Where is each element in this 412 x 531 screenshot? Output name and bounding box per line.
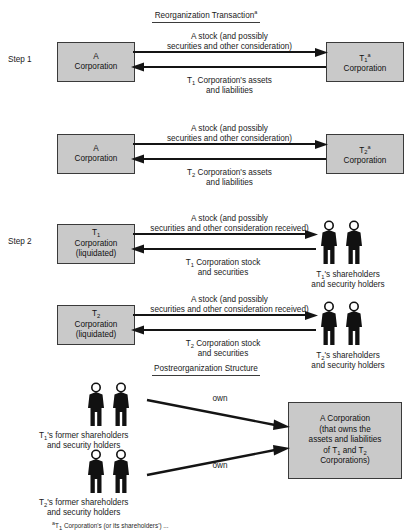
caption-row3-t-subscript: 1	[191, 262, 194, 268]
box-t2-liq-subscript: 2	[97, 313, 100, 319]
label-t1-former-rest: 's former shareholders	[47, 431, 128, 440]
footnote-text: Corporation's (or its shareholders') ...	[62, 522, 169, 529]
box-a-corporation-1: A Corporation	[57, 42, 135, 82]
arrow-row2-pair	[131, 140, 331, 170]
box-t2-liq-line1: T2	[92, 309, 100, 320]
box-t2-corp-line2: Corporation	[344, 156, 387, 167]
box-t1-corporation-liquidated: T1 Corporation (liquidated)	[57, 224, 135, 264]
label-t1-former-line1: T1's former shareholders	[39, 431, 179, 441]
box-t1-liq-line1: T1	[92, 228, 100, 239]
heading-reorg-footnote-mark: a	[254, 9, 257, 15]
people-icon-t1-shareholders	[318, 220, 376, 266]
box-t2-liq-line2: Corporation	[75, 320, 118, 331]
box-a-post-of-t1: of T	[323, 446, 337, 455]
box-t1-corp-line1: T1a	[359, 50, 370, 64]
arrow-row3-pair	[131, 230, 321, 260]
label-t2-former-line2: and security holders	[39, 508, 179, 518]
people-icon-t2-shareholders	[318, 301, 376, 347]
caption-row2-t-subscript: 2	[192, 172, 195, 178]
box-t2-corporation: T2a Corporation	[326, 134, 404, 174]
label-t2-shareholders: T2's shareholders and security holders	[286, 351, 410, 372]
box-t2-corp-subscript: 2	[364, 149, 367, 155]
label-t1-former-subscript: 1	[44, 435, 47, 441]
arrow-row1-pair	[131, 48, 331, 78]
label-t2-shareholders-line1: T2's shareholders	[286, 351, 410, 361]
box-t2-corp-footnote-mark: a	[368, 144, 371, 150]
box-t2-corp-line1: T2a	[359, 142, 370, 156]
box-t1-corp-footnote-mark: a	[368, 52, 371, 58]
arrow-row4-pair	[131, 311, 321, 341]
caption-row1-top-line1: A stock (and possibly	[133, 32, 326, 42]
label-t2-former-subscript: 2	[44, 502, 47, 508]
heading-reorg-text: Reorganization Transaction	[155, 11, 255, 20]
label-t1-shareholders: T1's shareholders and security holders	[286, 270, 410, 291]
box-t1-liq-line2: Corporation	[75, 239, 118, 250]
label-t1-shareholders-line2: and security holders	[286, 280, 410, 290]
box-a-corp-1-line2: Corporation	[75, 62, 118, 73]
label-own-2: own	[175, 461, 265, 471]
caption-row1-t-subscript: 1	[192, 80, 195, 86]
caption-row4-t-subscript: 2	[191, 343, 194, 349]
box-a-post-line2: (that owns the	[319, 425, 370, 436]
box-t1-liq-line3: (liquidated)	[76, 249, 117, 260]
box-t2-corporation-liquidated: T2 Corporation (liquidated)	[57, 305, 135, 345]
label-t1-shareholders-line1: T1's shareholders	[286, 270, 410, 280]
box-a-post-t2-subscript: 2	[364, 450, 367, 456]
box-a-corp-2-line1: A	[93, 144, 98, 155]
caption-row1-bottom-line2: and liabilities	[133, 86, 326, 96]
caption-row4-top-line1: A stock (and possibly	[133, 295, 326, 305]
box-t1-corporation: T1a Corporation	[326, 42, 404, 82]
people-icon-t2-former-shareholders	[85, 449, 143, 495]
box-a-post-line5: Corporations)	[320, 456, 370, 467]
footnote: aT1 Corporation's (or its shareholders')…	[52, 519, 169, 530]
step-2-label: Step 2	[8, 237, 32, 247]
label-t2-shareholders-line2: and security holders	[286, 361, 410, 371]
step-1-label: Step 1	[8, 55, 32, 65]
label-t2-former-line1: T2's former shareholders	[39, 498, 179, 508]
label-own-1: own	[175, 394, 265, 404]
label-t1-sh-rest: 's shareholders	[324, 270, 379, 279]
caption-row1-bottom: T1 Corporation's assets and liabilities	[133, 76, 326, 96]
box-t1-corp-line2: Corporation	[344, 64, 387, 75]
caption-row3-top-line1: A stock (and possibly	[133, 214, 326, 224]
people-icon-t1-former-shareholders	[85, 382, 143, 428]
box-a-corporation-post: A Corporation (that owns the assets and …	[288, 402, 402, 479]
box-a-post-line3: assets and liabilities	[309, 435, 382, 446]
box-a-post-line1: A Corporation	[320, 414, 370, 425]
box-a-corp-2-line2: Corporation	[75, 154, 118, 165]
label-t2-sh-rest: 's shareholders	[324, 351, 379, 360]
box-a-post-and-t2: and T	[340, 446, 363, 455]
label-t2-former-rest: 's former shareholders	[47, 498, 128, 507]
footnote-t-subscript: 1	[59, 525, 62, 531]
label-t2-former-shareholders: T2's former shareholders and security ho…	[39, 498, 179, 519]
box-a-corp-1-line1: A	[93, 52, 98, 63]
caption-row2-top-line1: A stock (and possibly	[133, 124, 326, 134]
box-t2-liq-line3: (liquidated)	[76, 330, 117, 341]
box-t1-corp-subscript: 1	[364, 57, 367, 63]
box-a-post-line4: of T1 and T2	[323, 446, 367, 457]
heading-postreorganization-structure: Postreorganization Structure	[152, 364, 260, 376]
caption-row2-bottom: T2 Corporation's assets and liabilities	[133, 168, 326, 188]
box-t1-liq-subscript: 1	[97, 232, 100, 238]
box-a-post-t1-subscript: 1	[337, 450, 340, 456]
label-t2-sh-subscript: 2	[321, 355, 324, 361]
heading-reorganization-transaction: Reorganization Transactiona	[152, 7, 260, 23]
label-t1-sh-subscript: 1	[321, 274, 324, 280]
caption-row2-bottom-line2: and liabilities	[133, 178, 326, 188]
box-a-corporation-2: A Corporation	[57, 134, 135, 174]
